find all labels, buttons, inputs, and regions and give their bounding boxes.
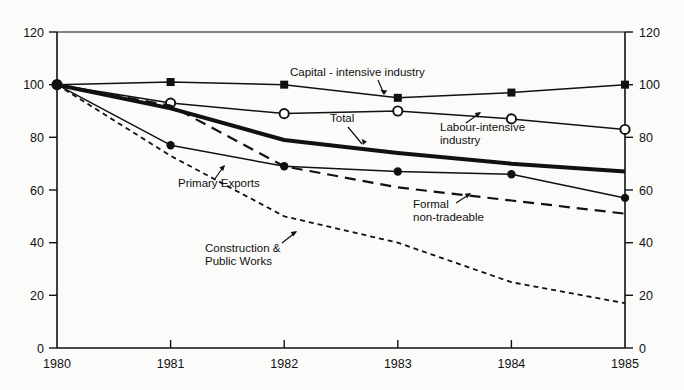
series-marker — [280, 109, 289, 118]
ytick-right-20: 20 — [639, 289, 653, 303]
ytick-right-0: 0 — [639, 342, 646, 356]
ytick-60: 60 — [30, 184, 44, 198]
ytick-right-80: 80 — [639, 131, 653, 145]
plot-frame — [57, 32, 625, 348]
xtick-1981: 1981 — [157, 357, 185, 371]
xtick-1984: 1984 — [497, 357, 525, 371]
ytick-20: 20 — [30, 289, 44, 303]
ytick-40: 40 — [30, 236, 44, 250]
annotation-label-construction-1: Construction & — [205, 242, 281, 254]
x-axis-ticks — [171, 340, 512, 348]
ytick-0: 0 — [37, 342, 44, 356]
ytick-80: 80 — [30, 131, 44, 145]
series-line — [57, 85, 625, 172]
series-labour-intensive-industry — [52, 80, 629, 134]
series-marker — [621, 81, 629, 89]
annotation-capital-intensive-industry: Capital - intensive industry — [290, 66, 425, 95]
series-marker — [507, 89, 515, 97]
series-total — [57, 85, 625, 172]
line-chart-svg: 120 100 80 60 40 20 0 120 100 80 60 40 2… — [0, 0, 684, 390]
series-marker — [280, 81, 288, 89]
chart-figure: 120 100 80 60 40 20 0 120 100 80 60 40 2… — [0, 0, 684, 390]
ytick-right-40: 40 — [639, 236, 653, 250]
annotation-construction-public-works: Construction & Public Works — [205, 231, 297, 267]
x-axis-labels: 1980 1981 1982 1983 1984 1985 — [43, 357, 639, 371]
annotation-label-labour-1: Labour-intensive — [440, 121, 525, 133]
annotation-label-formal-2: non-tradeable — [413, 211, 484, 223]
xtick-1982: 1982 — [270, 357, 298, 371]
series-marker — [507, 170, 515, 178]
series-line — [57, 82, 625, 98]
series-marker — [393, 106, 402, 115]
series-marker — [166, 141, 174, 149]
series-marker — [167, 78, 175, 86]
annotation-label-construction-2: Public Works — [205, 255, 272, 267]
ytick-right-120: 120 — [639, 26, 660, 40]
xtick-1985: 1985 — [611, 357, 639, 371]
annotation-label-labour-2: industry — [440, 134, 481, 146]
annotation-label-formal-1: Formal — [413, 198, 449, 210]
xtick-1983: 1983 — [384, 357, 412, 371]
y-axis-right-ticks — [625, 32, 633, 348]
origin-marker — [52, 79, 62, 89]
ytick-100: 100 — [23, 78, 44, 92]
annotation-total: Total — [330, 112, 367, 145]
ytick-right-100: 100 — [639, 78, 660, 92]
annotation-primary-exports: Primary Exports — [178, 165, 260, 189]
ytick-right-60: 60 — [639, 184, 653, 198]
annotation-label-capital: Capital - intensive industry — [290, 66, 425, 78]
ytick-120: 120 — [23, 26, 44, 40]
y-axis-right-labels: 120 100 80 60 40 20 0 — [639, 26, 660, 356]
series-marker — [621, 194, 629, 202]
series-marker — [394, 94, 402, 102]
series-marker — [394, 167, 402, 175]
annotation-label-primary-exports: Primary Exports — [178, 177, 260, 189]
xtick-1980: 1980 — [43, 357, 71, 371]
annotation-formal-non-tradeable: Formal non-tradeable — [413, 193, 484, 223]
annotation-label-total: Total — [330, 112, 354, 124]
series-marker — [620, 125, 629, 134]
y-axis-left-labels: 120 100 80 60 40 20 0 — [23, 26, 44, 356]
